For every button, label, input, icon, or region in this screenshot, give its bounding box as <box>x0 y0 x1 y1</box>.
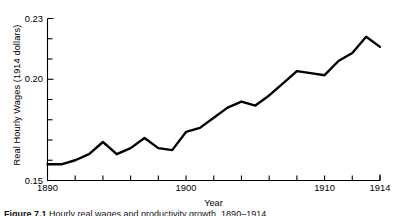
line-chart-plot <box>0 0 396 216</box>
data-series-lines <box>48 37 381 165</box>
figure-container: Real Hourly Wages (1914 dollars) Year 0.… <box>0 0 396 216</box>
figure-number: Figure 7.1 <box>4 209 47 216</box>
tick-marks <box>48 39 381 181</box>
figure-caption: Figure 7.1 Hourly real wages and product… <box>4 209 396 216</box>
caption-text: Hourly real wages and productivity growt… <box>49 209 266 216</box>
axes-lines <box>48 19 381 181</box>
